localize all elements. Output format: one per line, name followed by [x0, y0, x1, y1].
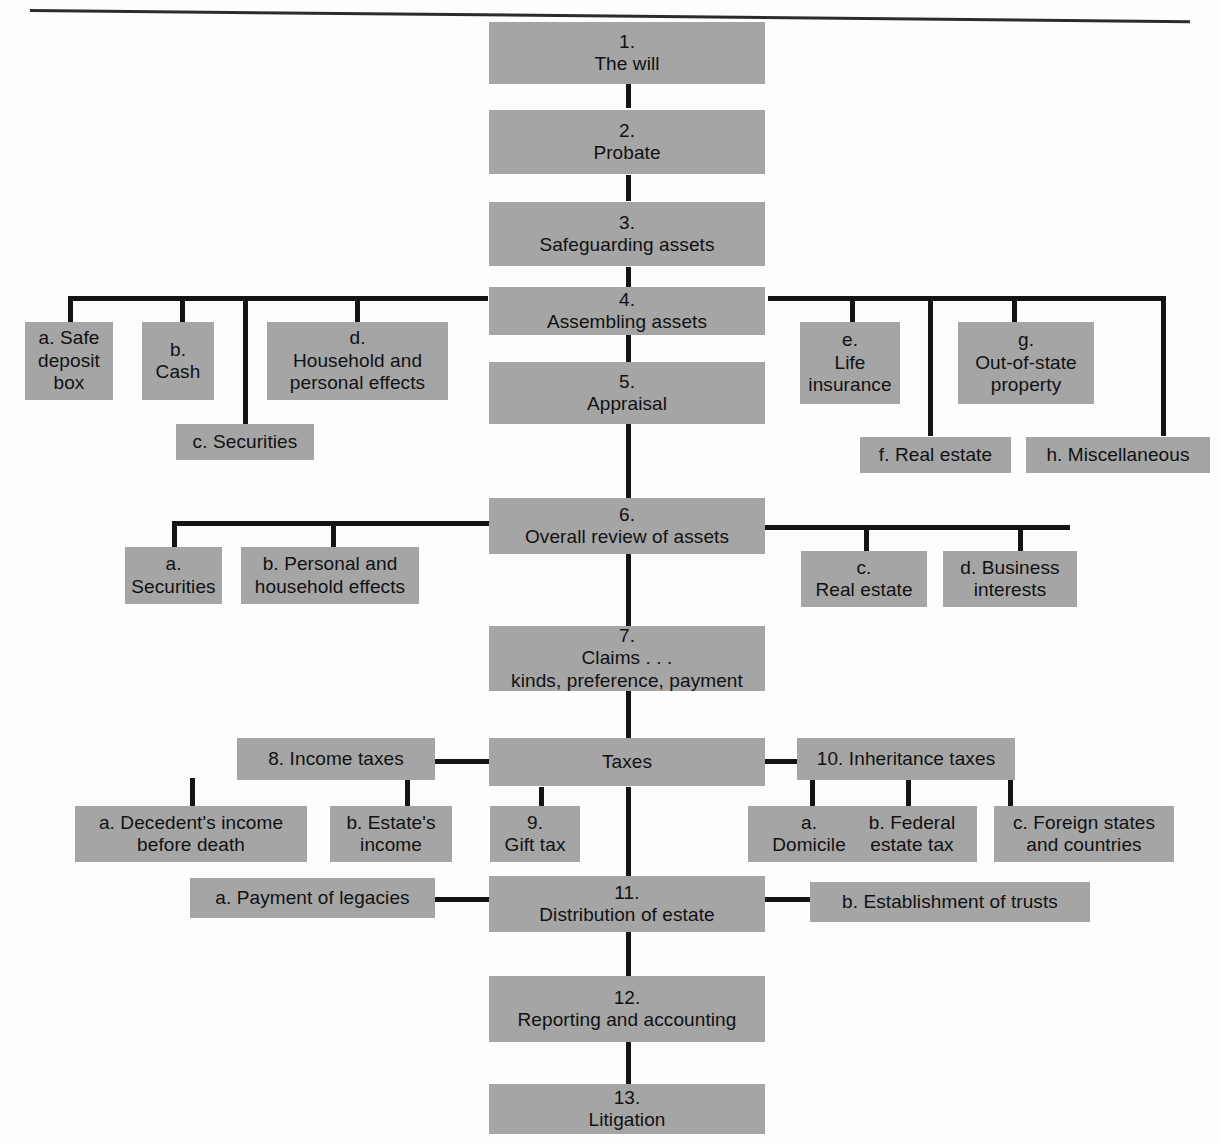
- node-13-number: 13.: [614, 1087, 641, 1108]
- node-6b-line2: household effects: [255, 576, 405, 597]
- node-4-number: 4.: [619, 289, 635, 310]
- node-taxes[interactable]: Taxes: [489, 738, 765, 786]
- node-11b-label: b. Establishment of trusts: [814, 891, 1086, 913]
- node-4g-line2: Out-of-state: [975, 352, 1077, 373]
- node-7-line2: Claims . . .: [582, 647, 673, 668]
- node-9-gift-tax[interactable]: 9. Gift tax: [490, 806, 580, 862]
- node-6-overall-review-of-assets[interactable]: 6. Overall review of assets: [489, 498, 765, 554]
- node-4e-life-insurance[interactable]: e. Life insurance: [800, 322, 900, 404]
- drop-10a: [810, 778, 815, 808]
- node-6d-line2: interests: [974, 579, 1047, 600]
- node-4d-line2: Household and: [293, 350, 422, 371]
- top-rule: [30, 9, 1190, 23]
- node-8b-line2: income: [360, 834, 422, 855]
- node-8a-line1: a. Decedent's income: [99, 812, 283, 833]
- node-6b-personal-household-effects[interactable]: b. Personal and household effects: [241, 547, 419, 604]
- node-5-number: 5.: [619, 371, 635, 392]
- node-5-label: Appraisal: [587, 393, 667, 414]
- node-6d-business-interests[interactable]: d. Business interests: [943, 551, 1077, 607]
- node-9-line2: Gift tax: [505, 834, 566, 855]
- connector-12-13: [626, 1041, 631, 1085]
- node-10b-line2: estate tax: [870, 834, 953, 855]
- drop-4b: [180, 296, 185, 324]
- bus-6-right: [762, 525, 1070, 530]
- node-10a-line2: Domicile: [772, 834, 846, 855]
- node-1-the-will[interactable]: 1. The will: [489, 22, 765, 84]
- node-4e-line2: Life: [834, 352, 865, 373]
- node-4d-line3: personal effects: [290, 372, 425, 393]
- drop-8a: [190, 778, 195, 808]
- node-11-distribution-of-estate[interactable]: 11. Distribution of estate: [489, 876, 765, 932]
- connector-tax-11: [626, 787, 631, 879]
- drop-10b: [906, 778, 911, 808]
- node-13-label: Litigation: [588, 1109, 665, 1130]
- node-4b-line1: b.: [170, 339, 186, 360]
- drop-10c: [1008, 778, 1013, 808]
- node-6c-line1: c.: [857, 557, 872, 578]
- node-12-reporting-and-accounting[interactable]: 12. Reporting and accounting: [489, 976, 765, 1042]
- drop-6a: [172, 521, 177, 549]
- node-4g-out-of-state-property[interactable]: g. Out-of-state property: [958, 322, 1094, 404]
- node-1-number: 1.: [619, 31, 635, 52]
- node-4d-household-personal-effects[interactable]: d. Household and personal effects: [267, 322, 448, 400]
- connector-4-5: [626, 334, 631, 364]
- node-4f-real-estate[interactable]: f. Real estate: [860, 437, 1011, 473]
- node-4a-safe-deposit-box[interactable]: a. Safe deposit box: [25, 322, 113, 400]
- node-4c-securities[interactable]: c. Securities: [176, 424, 314, 460]
- node-9-line1: 9.: [527, 812, 543, 833]
- node-taxes-label: Taxes: [493, 751, 761, 773]
- node-4f-label: f. Real estate: [864, 444, 1007, 466]
- node-10c-foreign-states-and-countries[interactable]: c. Foreign states and countries: [994, 806, 1174, 862]
- node-8a-decedents-income-before-death[interactable]: a. Decedent's income before death: [75, 806, 307, 862]
- drop-4a: [68, 296, 73, 324]
- drop-4c: [243, 296, 248, 426]
- node-2-number: 2.: [619, 120, 635, 141]
- node-10c-line2: and countries: [1026, 834, 1141, 855]
- node-7-line3: kinds, preference, payment: [511, 670, 743, 691]
- node-4a-line3: box: [54, 372, 85, 393]
- node-4e-line1: e.: [842, 329, 858, 350]
- node-4g-line1: g.: [1018, 329, 1034, 350]
- drop-4d: [355, 296, 360, 324]
- node-3-label: Safeguarding assets: [539, 234, 714, 255]
- flowchart-page: 1. The will 2. Probate 3. Safeguarding a…: [0, 0, 1220, 1143]
- node-6a-line1: a.: [165, 553, 181, 574]
- drop-4f: [928, 296, 933, 436]
- connector-1-2: [626, 82, 631, 108]
- connector-5-6: [626, 422, 631, 500]
- node-11b-establishment-of-trusts[interactable]: b. Establishment of trusts: [810, 882, 1090, 922]
- node-6d-line1: d. Business: [960, 557, 1059, 578]
- node-4h-miscellaneous[interactable]: h. Miscellaneous: [1026, 437, 1210, 473]
- node-3-number: 3.: [619, 212, 635, 233]
- node-10-inheritance-taxes[interactable]: 10. Inheritance taxes: [797, 738, 1015, 780]
- link-11-b: [762, 897, 812, 902]
- node-6-number: 6.: [619, 504, 635, 525]
- node-10c-line1: c. Foreign states: [1013, 812, 1155, 833]
- node-11a-payment-of-legacies[interactable]: a. Payment of legacies: [190, 878, 435, 918]
- node-2-probate[interactable]: 2. Probate: [489, 110, 765, 174]
- node-4-assembling-assets[interactable]: 4. Assembling assets: [489, 287, 765, 335]
- node-8b-line1: b. Estate's: [346, 812, 435, 833]
- node-4-label: Assembling assets: [547, 311, 707, 332]
- link-tax-8: [434, 759, 490, 764]
- node-2-label: Probate: [593, 142, 660, 163]
- node-5-appraisal[interactable]: 5. Appraisal: [489, 362, 765, 424]
- node-6c-real-estate[interactable]: c. Real estate: [801, 551, 927, 607]
- node-12-label: Reporting and accounting: [518, 1009, 737, 1030]
- node-11a-label: a. Payment of legacies: [194, 887, 431, 909]
- drop-9: [539, 787, 544, 807]
- node-10b-federal-estate-tax[interactable]: b. Federal estate tax: [847, 806, 977, 862]
- node-8-income-taxes[interactable]: 8. Income taxes: [237, 738, 435, 780]
- node-11-label: Distribution of estate: [539, 904, 714, 925]
- node-6-label: Overall review of assets: [525, 526, 729, 547]
- connector-11-12: [626, 930, 631, 978]
- node-4b-cash[interactable]: b. Cash: [142, 322, 214, 400]
- node-8b-estates-income[interactable]: b. Estate's income: [330, 806, 452, 862]
- node-6a-securities[interactable]: a. Securities: [125, 547, 222, 604]
- node-7-claims[interactable]: 7. Claims . . . kinds, preference, payme…: [489, 626, 765, 691]
- node-3-safeguarding-assets[interactable]: 3. Safeguarding assets: [489, 202, 765, 266]
- node-4d-line1: d.: [349, 327, 365, 348]
- node-1-label: The will: [594, 53, 659, 74]
- node-13-litigation[interactable]: 13. Litigation: [489, 1084, 765, 1134]
- drop-8b: [405, 778, 410, 808]
